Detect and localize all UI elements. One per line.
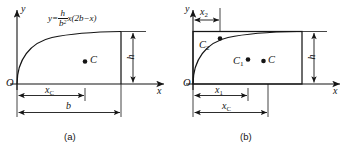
panel-b-label-c2-base: C (199, 39, 206, 50)
panel-b-origin-label: O (183, 78, 191, 89)
equation-factor: x(2b−x) (68, 13, 97, 23)
panel-b-label-c: C (268, 55, 275, 66)
equation-fraction: hb2 (58, 9, 67, 29)
panel-b-caption: (b) (240, 131, 252, 142)
panel-b-label-c1: C1 (233, 56, 244, 68)
panel-a-label-h: h (126, 55, 136, 60)
panel-a-label-xc-sub: C (49, 89, 54, 96)
panel-b-label-h: h (307, 55, 317, 60)
equation-denominator: b2 (58, 18, 67, 29)
panel-a-label-xc: xC (45, 85, 54, 97)
panel-a-parabola-curve (17, 32, 121, 85)
panel-a-curve-equation: y=hb2x(2b−x) (48, 9, 97, 29)
panel-a-x-axis-label: x (157, 86, 161, 96)
panel-a-origin-label: O (6, 78, 14, 89)
panel-b-label-c2: C2 (199, 40, 210, 52)
panel-b-label-x2-sub: 2 (204, 11, 207, 18)
panel-a-y-axis-label: y (21, 4, 25, 14)
equation-numerator: h (58, 9, 67, 18)
panel-b-label-xc: xC (222, 101, 231, 113)
panel-b-label-c1-sub: 1 (240, 60, 244, 68)
panel-b-y-axis-label: y (185, 4, 189, 14)
panel-b-label-c2-sub: 2 (206, 44, 210, 52)
panel-a-centroid-dot (83, 59, 88, 64)
panel-b-label-c1-base: C (233, 55, 240, 66)
panel-b-label-xc-sub: C (226, 105, 231, 112)
panel-b-label-x1: x1 (215, 85, 223, 97)
panel-a-label-b: b (66, 101, 71, 111)
panel-b-centroid-dot-c1 (246, 57, 251, 62)
panel-b (186, 8, 340, 117)
panel-a-centroid-label: C (90, 55, 97, 66)
panel-b-centroid-dot-c (261, 59, 266, 64)
panel-b-label-x1-sub: 1 (219, 89, 222, 96)
panel-b-label-x2: x2 (200, 7, 208, 19)
panel-b-x-axis-label: x (333, 86, 337, 96)
panel-b-centroid-dot-c2 (218, 36, 223, 41)
panel-a-caption: (a) (64, 131, 76, 142)
equation-denominator-exponent: 2 (64, 19, 67, 25)
